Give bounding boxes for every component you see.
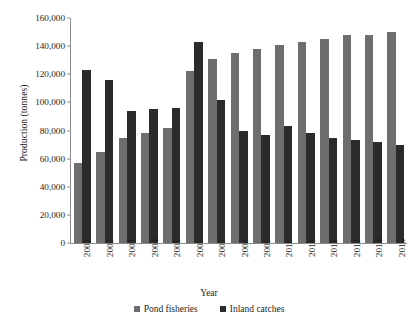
bar-pond-fisheries — [96, 152, 105, 243]
bar-group — [205, 18, 227, 243]
bar-group — [317, 18, 339, 243]
y-axis-title: Production (tonnes) — [19, 43, 29, 203]
x-tick-label: 2003 — [127, 239, 137, 257]
y-tick-mark — [67, 186, 70, 187]
bar-groups — [71, 18, 407, 243]
x-tick-cell: 2015 — [386, 246, 408, 286]
x-tick-cell: 2006 — [183, 246, 205, 286]
x-axis-tick-labels: 2001200220032004200520062007200820092010… — [71, 246, 408, 286]
x-tick-label: 2010 — [284, 239, 294, 257]
bar-inland-catches — [284, 126, 293, 243]
x-tick-cell: 2003 — [116, 246, 138, 286]
bar-group — [340, 18, 362, 243]
x-tick-cell: 2009 — [251, 246, 273, 286]
bar-pond-fisheries — [343, 35, 352, 243]
y-tick-mark — [67, 158, 70, 159]
x-tick-label: 2004 — [150, 239, 160, 257]
bar-group — [250, 18, 272, 243]
y-tick-mark — [67, 74, 70, 75]
bar-inland-catches — [306, 133, 315, 243]
bar-inland-catches — [351, 140, 360, 243]
x-tick-label: 2012 — [329, 239, 339, 257]
y-tick-label: 60,000 — [40, 154, 65, 164]
y-tick-label: 0 — [60, 238, 65, 248]
legend-item[interactable]: Pond fisheries — [134, 304, 198, 314]
x-tick-cell: 2002 — [93, 246, 115, 286]
bar-pond-fisheries — [320, 39, 329, 243]
x-tick-label: 2002 — [105, 239, 115, 257]
bar-pond-fisheries — [365, 35, 374, 243]
bar-pond-fisheries — [298, 42, 307, 243]
bar-group — [385, 18, 407, 243]
x-tick-label: 2015 — [397, 239, 407, 257]
y-tick-mark — [67, 102, 70, 103]
bar-pond-fisheries — [387, 32, 396, 243]
y-tick-mark — [67, 18, 70, 19]
legend-label: Pond fisheries — [144, 304, 198, 314]
bar-pond-fisheries — [186, 71, 195, 243]
bar-pond-fisheries — [141, 133, 150, 243]
y-tick-label: 100,000 — [35, 97, 65, 107]
y-tick-mark — [67, 243, 70, 244]
x-tick-cell: 2011 — [296, 246, 318, 286]
y-tick-mark — [67, 214, 70, 215]
y-tick-label: 140,000 — [35, 41, 65, 51]
bar-inland-catches — [329, 138, 338, 243]
y-tick-label: 80,000 — [40, 126, 65, 136]
bar-inland-catches — [261, 135, 270, 243]
bar-group — [362, 18, 384, 243]
x-tick-cell: 2004 — [138, 246, 160, 286]
y-tick-mark — [67, 46, 70, 47]
x-tick-cell: 2013 — [341, 246, 363, 286]
plot-area: 020,00040,00060,00080,000100,000120,0001… — [70, 18, 407, 244]
bar-inland-catches — [373, 142, 382, 243]
x-tick-label: 2006 — [195, 239, 205, 257]
bar-inland-catches — [194, 42, 203, 243]
x-tick-cell: 2008 — [228, 246, 250, 286]
bar-pond-fisheries — [231, 53, 240, 243]
x-tick-label: 2005 — [172, 239, 182, 257]
bar-group — [228, 18, 250, 243]
y-tick-label: 120,000 — [35, 69, 65, 79]
x-tick-label: 2001 — [82, 239, 92, 257]
bar-group — [273, 18, 295, 243]
x-tick-cell: 2014 — [363, 246, 385, 286]
bar-group — [161, 18, 183, 243]
x-tick-label: 2014 — [374, 239, 384, 257]
legend-swatch-icon — [134, 306, 140, 312]
x-tick-cell: 2012 — [318, 246, 340, 286]
bar-pond-fisheries — [275, 45, 284, 243]
x-axis-title: Year — [0, 288, 418, 298]
bar-group — [116, 18, 138, 243]
bar-inland-catches — [217, 100, 226, 243]
x-tick-cell: 2001 — [71, 246, 93, 286]
y-tick-label: 40,000 — [40, 182, 65, 192]
legend-item[interactable]: Inland catches — [220, 304, 285, 314]
bar-inland-catches — [127, 111, 136, 243]
bar-inland-catches — [82, 70, 91, 243]
x-tick-label: 2008 — [240, 239, 250, 257]
bar-group — [138, 18, 160, 243]
legend-label: Inland catches — [230, 304, 285, 314]
y-tick-mark — [67, 130, 70, 131]
bar-group — [71, 18, 93, 243]
x-tick-label: 2011 — [307, 239, 317, 257]
bar-group — [93, 18, 115, 243]
bar-group — [183, 18, 205, 243]
bar-inland-catches — [239, 131, 248, 244]
bar-pond-fisheries — [208, 59, 217, 243]
x-tick-label: 2013 — [352, 239, 362, 257]
bar-pond-fisheries — [119, 138, 128, 243]
bar-inland-catches — [105, 80, 114, 243]
bar-inland-catches — [396, 145, 405, 243]
x-tick-cell: 2005 — [161, 246, 183, 286]
x-tick-cell: 2010 — [273, 246, 295, 286]
bar-group — [295, 18, 317, 243]
bar-inland-catches — [172, 108, 181, 243]
bar-pond-fisheries — [253, 49, 262, 243]
bar-pond-fisheries — [163, 128, 172, 243]
chart-legend: Pond fisheriesInland catches — [0, 304, 418, 314]
x-tick-label: 2007 — [217, 239, 227, 257]
legend-swatch-icon — [220, 306, 226, 312]
bar-pond-fisheries — [74, 163, 83, 243]
